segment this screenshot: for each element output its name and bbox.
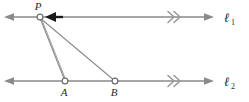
point-b-marker bbox=[112, 78, 118, 84]
segment-p-a bbox=[40, 18, 65, 81]
point-p-label: P bbox=[34, 0, 42, 12]
line-1-label-subscript: 1 bbox=[231, 18, 235, 27]
line-2-label: ℓ 2 bbox=[224, 74, 235, 91]
line-2-right-arrowhead bbox=[204, 77, 214, 85]
line-2-label-glyph: ℓ bbox=[224, 74, 230, 89]
segment-p-b bbox=[40, 18, 115, 81]
line-1-label-glyph: ℓ bbox=[224, 10, 230, 25]
line-2-label-subscript: 2 bbox=[231, 82, 235, 91]
segments-group bbox=[40, 18, 115, 83]
arrow-to-p bbox=[45, 12, 63, 22]
figure-canvas: P A B ℓ 1 ℓ 2 bbox=[0, 0, 249, 102]
geometry-figure: P A B ℓ 1 ℓ 2 bbox=[0, 0, 249, 102]
point-a-marker bbox=[62, 78, 68, 84]
point-p-marker bbox=[37, 14, 43, 20]
point-a-label: A bbox=[60, 86, 68, 98]
line-1-right-arrowhead bbox=[204, 13, 214, 21]
segment-p-a-inner bbox=[42, 19, 68, 83]
line-2-left-arrowhead bbox=[4, 77, 14, 85]
line-1-left-arrowhead bbox=[4, 13, 14, 21]
arrow-to-p-head bbox=[45, 12, 56, 22]
line-1-group bbox=[4, 12, 214, 23]
line-1-label: ℓ 1 bbox=[224, 10, 235, 27]
point-b-label: B bbox=[111, 86, 118, 98]
line-2-group bbox=[4, 76, 214, 87]
